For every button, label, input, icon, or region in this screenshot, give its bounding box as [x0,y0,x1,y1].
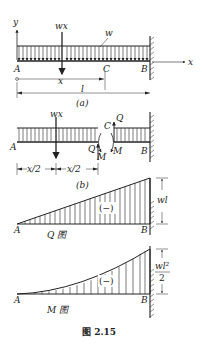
shear-right-label: Q [116,113,124,123]
resultant-label: wx [55,21,68,31]
panel-a: y x [12,17,193,108]
y-axis-label: y [12,17,19,27]
figure-caption: 图 2.15 [82,327,116,337]
moment-max-label-den: 2 [159,273,165,283]
point-c-label: C [103,64,110,74]
moment-diagram-title: M 图 [46,305,70,315]
moment-left-label: M [96,152,107,162]
x-axis-label: x [188,57,193,67]
shear-point-a: A [13,225,21,235]
moment-point-a: A [13,295,21,305]
shear-sign: (−) [99,203,114,213]
point-a-label-b: A [9,142,17,152]
shear-diagram-title: Q 图 [47,230,68,240]
load-intensity-label: w [105,28,113,38]
moment-hatch [35,251,145,294]
dim-x-label: x [58,76,63,86]
point-b-label-b: B [140,146,148,156]
shear-diagram: (−) wl A B Q 图 [13,178,168,240]
point-c-label-b: C [104,121,111,131]
point-b-label: B [140,64,148,74]
panel-b: wx A Q M C Q M B [9,109,154,190]
distributed-load-arrows [19,46,147,60]
shear-point-b: B [140,225,148,235]
point-a-label: A [13,64,21,74]
panel-a-caption: (a) [76,98,89,108]
moment-max-label-num: wl² [155,261,170,271]
dim-half2-label: x/2 [67,164,81,174]
moment-sign: (−) [99,276,114,286]
left-load-arrows [19,128,95,141]
wall-hatching [150,37,154,80]
dim-l-label: l [81,84,84,94]
shear-max-label: wl [157,195,168,205]
moment-right-label: M [112,146,123,156]
right-load-arrows [117,128,145,141]
dim-half1-label: x/2 [27,164,41,174]
panel-b-caption: (b) [76,180,89,190]
moment-parabola [17,249,150,294]
moment-point-b: B [140,295,148,305]
resultant-label-b: wx [50,109,63,119]
shear-left-label: Q [88,144,96,154]
moment-diagram: (−) wl² 2 A B M 图 [13,246,170,318]
cantilever-beam-figure: y x [0,0,202,346]
moment-left-arrow [99,133,102,152]
